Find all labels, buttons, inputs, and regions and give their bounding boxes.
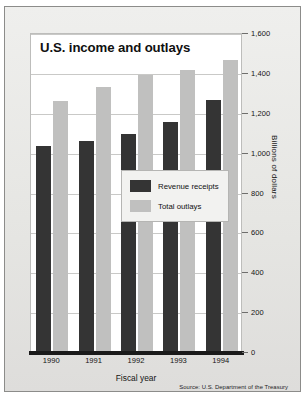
y-axis-tick-label: 0 [251,348,255,357]
legend-swatch-revenue-receipts [130,180,151,192]
y-axis-tick-mark [242,232,248,233]
legend-swatch-total-outlays [130,200,151,212]
y-axis-tick-mark [242,272,248,273]
y-axis-tick-label: 600 [251,228,264,237]
bar-1991-revenue-receipts [79,141,94,351]
y-axis-tick-label: 1,000 [251,148,270,157]
legend-item-total-outlays: Total outlays [130,199,201,213]
y-axis-tick-label: 1,400 [251,68,270,77]
y-axis-tick-mark [242,33,248,34]
y-axis-tick-mark [242,73,248,74]
bar-1991-total-outlays [96,87,111,351]
legend-label-total-outlays: Total outlays [158,202,201,211]
y-axis-tick-mark [242,312,248,313]
legend-label-revenue-receipts: Revenue receipts [158,182,219,191]
chart-page: 02004006008001,0001,2001,4001,600 199019… [0,0,307,401]
bar-1990-total-outlays [53,101,68,351]
chart-card: 02004006008001,0001,2001,4001,600 199019… [4,6,301,392]
y-axis-tick-label: 1,600 [251,29,270,38]
x-axis-label: Fiscal year [116,373,157,383]
x-axis-tick-label: 1994 [212,356,229,365]
chart-title: U.S. income and outlays [40,40,190,55]
legend-item-revenue-receipts: Revenue receipts [130,179,219,193]
y-axis-tick-mark [242,193,248,194]
bar-1990-revenue-receipts [36,146,51,351]
chart-legend: Revenue receipts Total outlays [121,170,229,222]
x-axis-tick-label: 1990 [43,356,60,365]
x-axis-tick-label: 1992 [128,356,145,365]
bar-1993-revenue-receipts [163,122,178,351]
bar-1994-revenue-receipts [206,100,221,351]
y-axis-tick-mark [242,113,248,114]
y-axis-tick-label: 400 [251,268,264,277]
y-axis-tick-mark [242,352,248,353]
x-axis-tick-label: 1993 [170,356,187,365]
y-axis-label: Billions of dollars [270,135,279,199]
source-note: Source: U.S. Department of the Treasury [179,384,288,390]
y-axis-tick-label: 1,200 [251,108,270,117]
y-axis-tick-mark [242,153,248,154]
x-axis-baseline [29,351,244,355]
y-axis-tick-label: 200 [251,308,264,317]
bar-1992-revenue-receipts [121,134,136,351]
x-axis-tick-label: 1991 [85,356,102,365]
y-axis-tick-label: 800 [251,188,264,197]
